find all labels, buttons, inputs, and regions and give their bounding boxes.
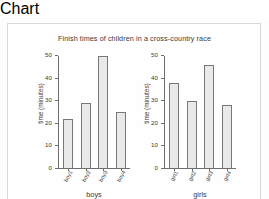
y-tick-girls-30: 30 [161,100,164,101]
y-axis-label-boys: time (minutes) [37,67,44,141]
chart-panel-girls: time (minutes) 01020304050 girl1girl2gir… [136,54,241,199]
x-tick-label-girl3: girl3 [204,170,214,182]
x-tick-label-girl2: girl2 [187,170,197,182]
bar-boy1[interactable] [63,119,73,168]
bar-slot: girl2 [183,56,201,168]
x-tick-label-boy1: boy1 [62,169,73,182]
chart-figure: Finish times of children in a cross-coun… [0,18,269,199]
y-tick-label: 50 [151,51,158,58]
y-tick-girls-0: 0 [161,168,164,169]
y-tick-label: 40 [151,74,158,81]
bar-girl3[interactable] [204,65,214,168]
bar-slot: boy1 [59,56,77,168]
y-tick-label: 30 [151,96,158,103]
plot-area-boys: 01020304050 boy1boy2boy3boy4 [58,56,130,169]
bar-boy2[interactable] [81,103,91,168]
y-tick-boys-10: 10 [55,145,58,146]
bar-boy3[interactable] [98,56,108,168]
plot-area-girls: 01020304050 girl1girl2girl3girl4 [164,56,236,169]
y-axis-label-girls: time (minutes) [143,67,150,141]
bar-slot: boy2 [77,56,95,168]
y-tick-label: 30 [45,96,52,103]
x-tick-label-boy3: boy3 [98,169,109,182]
y-tick-label: 0 [49,164,52,171]
bar-slot: girl4 [218,56,236,168]
bar-girl4[interactable] [222,105,232,168]
y-tick-label: 50 [45,51,52,58]
chart-title: Finish times of children in a cross-coun… [0,34,269,43]
y-tick-boys-30: 30 [55,100,58,101]
y-tick-boys-40: 40 [55,78,58,79]
x-tick-label-boy4: boy4 [116,169,127,182]
y-tick-label: 10 [45,141,52,148]
y-tick-boys-50: 50 [55,55,58,56]
y-tick-girls-40: 40 [161,78,164,79]
y-tick-boys-0: 0 [55,168,58,169]
bar-slot: boy4 [112,56,130,168]
bar-girl2[interactable] [187,101,197,168]
y-tick-girls-50: 50 [161,55,164,56]
y-tick-girls-20: 20 [161,123,164,124]
bar-boy4[interactable] [116,112,126,168]
y-tick-label: 20 [45,119,52,126]
x-tick-label-girl4: girl4 [222,170,232,182]
y-tick-label: 20 [151,119,158,126]
x-axis-label-boys: boys [58,190,130,199]
chart-panel-boys: time (minutes) 01020304050 boy1boy2boy3b… [30,54,135,199]
bar-slot: girl3 [201,56,219,168]
x-axis-label-girls: girls [164,190,236,199]
y-tick-label: 40 [45,74,52,81]
y-tick-label: 0 [155,164,158,171]
bar-slot: girl1 [165,56,183,168]
bar-girl1[interactable] [169,83,179,168]
y-tick-boys-20: 20 [55,123,58,124]
bar-group-boys: boy1boy2boy3boy4 [59,56,130,168]
y-tick-label: 10 [151,141,158,148]
bar-group-girls: girl1girl2girl3girl4 [165,56,236,168]
x-tick-label-boy2: boy2 [80,169,91,182]
x-tick-label-girl1: girl1 [169,170,179,182]
bar-slot: boy3 [95,56,113,168]
y-tick-girls-10: 10 [161,145,164,146]
